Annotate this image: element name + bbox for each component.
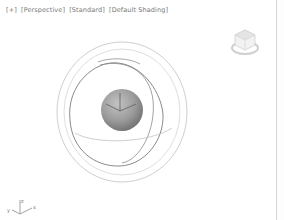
axis-tripod-icon: z x y xyxy=(6,196,40,220)
right-panel xyxy=(277,0,284,220)
perspective-viewport[interactable]: [+] [Perspective] [Standard] [Default Sh… xyxy=(0,0,275,220)
axis-z-label: z xyxy=(21,198,24,204)
axis-y-label: y xyxy=(7,207,10,214)
viewcube-icon[interactable] xyxy=(229,26,261,58)
axis-x-label: x xyxy=(33,204,36,210)
